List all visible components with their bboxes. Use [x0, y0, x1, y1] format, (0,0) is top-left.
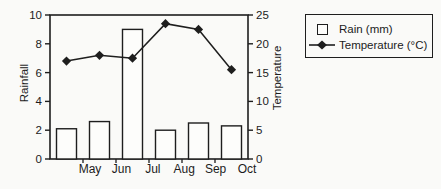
rain-bar-may — [57, 129, 77, 159]
left-axis-tick-label: 0 — [36, 153, 42, 165]
legend-item-temperature: Temperature (°C) — [309, 39, 432, 52]
left-axis-tick-label: 4 — [36, 95, 43, 107]
rain-bar-aug — [156, 130, 176, 159]
legend-label-rain: Rain (mm) — [339, 23, 393, 36]
temperature-swatch-col — [309, 39, 335, 51]
x-label-may: May — [79, 162, 102, 176]
x-label-jun: Jun — [112, 162, 131, 176]
plot-border — [50, 15, 248, 159]
figure: 02468100510152025MayJunJulAugSepOctRainf… — [0, 0, 441, 189]
x-label-sep: Sep — [205, 162, 227, 176]
rain-swatch-col — [309, 23, 335, 35]
legend-item-rain: Rain (mm) — [309, 23, 432, 36]
left-axis-tick-label: 2 — [36, 124, 42, 136]
x-label-oct: Oct — [238, 162, 257, 176]
right-axis-tick-label: 5 — [256, 124, 262, 136]
right-axis-tick-label: 25 — [256, 9, 269, 21]
right-axis-title: Temperature — [271, 46, 283, 111]
rain-bar-sep — [189, 123, 209, 159]
right-axis-tick-label: 0 — [256, 153, 262, 165]
left-axis-tick-label: 8 — [36, 38, 42, 50]
left-axis-tick-label: 6 — [36, 67, 42, 79]
x-label-aug: Aug — [174, 162, 195, 176]
right-axis-tick-label: 10 — [256, 95, 269, 107]
rain-bar-oct — [222, 126, 242, 159]
right-axis-tick-label: 15 — [256, 67, 269, 79]
x-label-jul: Jul — [145, 162, 160, 176]
left-axis-title: Rainfall — [18, 64, 30, 102]
temperature-line-marker-icon — [309, 40, 335, 50]
legend: Rain (mm) Temperature (°C) — [305, 14, 433, 58]
legend-label-temperature: Temperature (°C) — [339, 39, 427, 52]
temperature-line — [67, 24, 232, 70]
temperature-marker-jun — [95, 51, 104, 60]
rain-bar-jun — [90, 122, 110, 159]
rain-bar-jul — [123, 29, 143, 159]
temperature-marker-may — [62, 56, 71, 65]
rain-bar-swatch-icon — [317, 24, 328, 35]
right-axis-tick-label: 20 — [256, 38, 269, 50]
left-axis-tick-label: 10 — [29, 9, 42, 21]
